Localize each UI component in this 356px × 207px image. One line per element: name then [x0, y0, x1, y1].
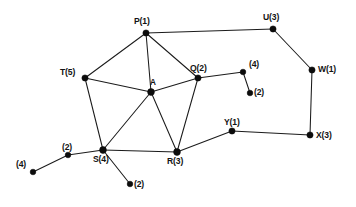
node-label-P: P(1) — [134, 17, 150, 26]
edge-P-T — [85, 33, 146, 78]
graph-node-U[interactable] — [270, 26, 276, 32]
edge-W-X — [310, 70, 312, 135]
graph-node-R[interactable] — [174, 149, 181, 156]
edge-T-S — [85, 78, 103, 150]
edge-X-Y — [232, 131, 310, 135]
graph-node-s2[interactable] — [30, 169, 36, 175]
graph-svg-layer — [0, 0, 356, 207]
graph-node-S[interactable] — [100, 147, 107, 154]
edge-S-R — [103, 150, 177, 152]
graph-node-P[interactable] — [143, 30, 149, 36]
edge-A-R — [151, 92, 177, 152]
graph-node-q1[interactable] — [240, 69, 246, 75]
graph-node-q2[interactable] — [247, 90, 253, 96]
node-label-s1: (2) — [62, 143, 72, 152]
edge-A-Q — [151, 78, 198, 92]
graph-node-s3[interactable] — [127, 181, 133, 187]
node-label-s3: (2) — [134, 180, 144, 189]
graph-node-T[interactable] — [82, 75, 88, 81]
graph-node-W[interactable] — [309, 67, 315, 73]
node-label-R: R(3) — [167, 157, 183, 166]
graph-node-X[interactable] — [307, 132, 313, 138]
edge-Y-R — [177, 131, 232, 152]
node-label-A: A — [150, 79, 156, 87]
node-label-X: X(3) — [316, 131, 332, 140]
node-label-Y: Y(1) — [224, 118, 240, 127]
edge-Q-R — [177, 78, 198, 152]
node-label-W: W(1) — [318, 65, 336, 74]
graph-diagram: P(1)U(3)W(1)T(5)Q(2)AX(3)Y(1)S(4)R(3)(4)… — [0, 0, 356, 207]
node-label-T: T(5) — [60, 68, 75, 77]
node-label-Q: Q(2) — [190, 64, 207, 73]
edge-T-A — [85, 78, 151, 92]
edge-U-W — [273, 29, 312, 70]
node-label-q1: (4) — [249, 60, 259, 69]
graph-node-A[interactable] — [148, 89, 155, 96]
graph-node-Y[interactable] — [229, 128, 235, 134]
node-label-S: S(4) — [93, 155, 109, 164]
node-label-q2: (2) — [254, 88, 264, 97]
node-label-s2: (4) — [16, 160, 26, 169]
node-label-U: U(3) — [263, 13, 279, 22]
edge-P-U — [146, 29, 273, 33]
edge-pendant-4-pendant-2 — [243, 72, 250, 93]
graph-node-Q[interactable] — [195, 75, 201, 81]
edge-A-S — [103, 92, 151, 150]
edge-pendant-2-pendant-4 — [33, 155, 68, 172]
graph-node-s1[interactable] — [65, 152, 71, 158]
